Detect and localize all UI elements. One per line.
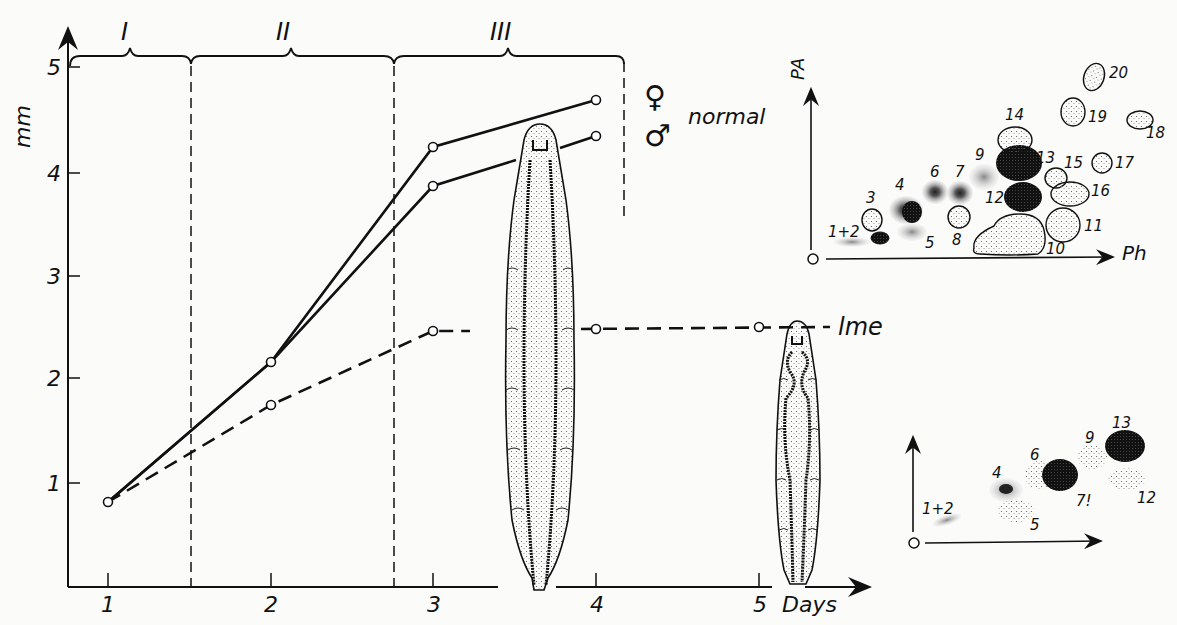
y-axis-label: mm bbox=[10, 105, 35, 148]
svg-text:10: 10 bbox=[1046, 240, 1065, 258]
svg-text:13: 13 bbox=[1036, 149, 1055, 167]
series-male-normal-end bbox=[560, 136, 596, 148]
svg-text:5: 5 bbox=[1030, 516, 1040, 534]
svg-text:7: 7 bbox=[955, 163, 965, 181]
marker-lme-d5 bbox=[755, 323, 764, 332]
x-ticks bbox=[108, 573, 759, 587]
figure: 5 4 3 2 1 mm 1 2 3 4 5 Days bbox=[0, 0, 1177, 625]
x-tick-labels: 1 2 3 4 5 Days bbox=[101, 592, 837, 617]
svg-text:1+2: 1+2 bbox=[828, 223, 860, 241]
legend: ♀ ♂ normal lme bbox=[644, 79, 883, 341]
ph-axis-label: Ph bbox=[1122, 241, 1147, 265]
svg-text:5: 5 bbox=[925, 234, 935, 252]
svg-text:12: 12 bbox=[1137, 489, 1156, 507]
svg-text:9: 9 bbox=[1085, 429, 1095, 447]
marker-start bbox=[104, 498, 113, 507]
svg-text:17: 17 bbox=[1115, 154, 1135, 172]
y-ticks bbox=[68, 67, 80, 483]
larva-normal-illustration bbox=[506, 124, 575, 590]
svg-text:11: 11 bbox=[1084, 217, 1103, 235]
legend-normal-label: normal bbox=[688, 104, 765, 129]
male-symbol: ♂ bbox=[644, 118, 671, 153]
stage-labels: I II III bbox=[121, 18, 511, 46]
marker-lme-d4 bbox=[592, 325, 601, 334]
legend-lme-label: lme bbox=[838, 313, 883, 341]
marker-female-d4 bbox=[592, 96, 601, 105]
x-tick-4: 4 bbox=[590, 592, 604, 617]
chromatogram-lme: 1+2 4 5 6 7! 9 12 13 bbox=[909, 414, 1156, 548]
ph-axis bbox=[826, 257, 1112, 259]
series-male-normal bbox=[108, 160, 516, 502]
svg-text:6: 6 bbox=[930, 163, 940, 181]
y-tick-4: 4 bbox=[47, 161, 61, 186]
y-tick-2: 2 bbox=[47, 366, 61, 391]
marker-male-d4 bbox=[592, 132, 601, 141]
x-tick-1: 1 bbox=[101, 592, 115, 617]
marker-lme-d3 bbox=[429, 327, 438, 336]
marker-lme-d2 bbox=[267, 401, 276, 410]
chromatogram-normal: PA Ph 1+2 3 4 5 6 7 8 9 bbox=[787, 58, 1165, 265]
y-tick-3: 3 bbox=[47, 264, 61, 289]
svg-text:15: 15 bbox=[1064, 154, 1083, 172]
svg-text:7!: 7! bbox=[1076, 492, 1092, 510]
stage-label-III: III bbox=[490, 18, 511, 46]
svg-text:3: 3 bbox=[866, 189, 876, 207]
y-tick-labels: 5 4 3 2 1 bbox=[47, 55, 61, 496]
svg-text:14: 14 bbox=[1005, 106, 1024, 124]
pa-axis-label: PA bbox=[787, 58, 808, 80]
svg-text:18: 18 bbox=[1146, 124, 1165, 142]
svg-text:13: 13 bbox=[1112, 414, 1131, 432]
stage-label-II: II bbox=[276, 18, 290, 46]
svg-text:6: 6 bbox=[1030, 446, 1040, 464]
svg-text:12: 12 bbox=[985, 189, 1004, 207]
larva-lme-illustration bbox=[776, 321, 820, 584]
svg-text:9: 9 bbox=[975, 146, 985, 164]
svg-text:8: 8 bbox=[952, 231, 962, 249]
y-tick-5: 5 bbox=[47, 55, 61, 80]
origin-marker bbox=[909, 538, 919, 548]
marker-normal-d2 bbox=[267, 358, 276, 367]
svg-text:19: 19 bbox=[1088, 108, 1107, 126]
female-symbol: ♀ bbox=[644, 79, 666, 114]
x-tick-2: 2 bbox=[264, 592, 278, 617]
x-tick-3: 3 bbox=[427, 592, 441, 617]
marker-female-d3 bbox=[429, 143, 438, 152]
origin-marker bbox=[808, 254, 818, 264]
svg-text:4: 4 bbox=[895, 176, 905, 194]
x-tick-5: 5 bbox=[753, 592, 767, 617]
stage-braces bbox=[70, 48, 624, 66]
series-lme bbox=[108, 331, 470, 502]
growth-chart: 5 4 3 2 1 mm 1 2 3 4 5 Days bbox=[10, 18, 883, 617]
svg-text:4: 4 bbox=[992, 464, 1002, 482]
horizontal-axis bbox=[925, 541, 1100, 543]
y-tick-1: 1 bbox=[47, 471, 61, 496]
stage-label-I: I bbox=[121, 18, 128, 46]
marker-male-d3 bbox=[429, 182, 438, 191]
x-axis-label: Days bbox=[782, 592, 837, 617]
svg-text:20: 20 bbox=[1109, 64, 1128, 82]
svg-text:1+2: 1+2 bbox=[922, 500, 954, 518]
svg-text:16: 16 bbox=[1091, 182, 1110, 200]
